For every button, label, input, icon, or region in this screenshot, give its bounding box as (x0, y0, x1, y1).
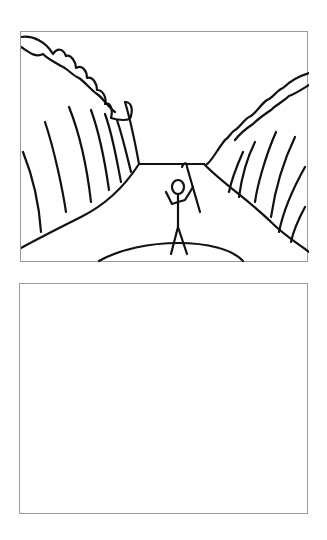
left-foliage (21, 37, 132, 120)
empty-panel-bottom (19, 283, 308, 514)
stick-figure (166, 163, 200, 254)
stick-figure-path-drawing (21, 32, 309, 263)
drawing-panel-top (20, 31, 308, 262)
